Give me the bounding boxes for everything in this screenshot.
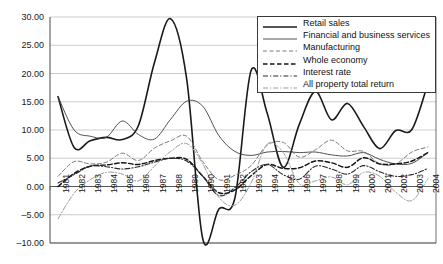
- y-axis-tick-label: –10.00: [0, 238, 44, 248]
- legend-item[interactable]: All property total return: [258, 78, 435, 90]
- x-axis-tick-label: 1985: [126, 174, 135, 193]
- legend-swatch-icon: [262, 30, 298, 40]
- x-axis-tick-label: 1986: [142, 174, 151, 193]
- legend-item[interactable]: Manufacturing: [258, 41, 435, 53]
- x-axis-tick-label: 1988: [175, 174, 184, 193]
- x-axis-tick-label: 1987: [159, 174, 168, 193]
- legend-item[interactable]: Financial and business services: [258, 29, 435, 41]
- legend: Retail salesFinancial and business servi…: [257, 16, 436, 93]
- legend-label: Financial and business services: [303, 30, 430, 40]
- y-axis-tick-label: 5.00: [0, 153, 44, 163]
- legend-swatch-icon: [262, 79, 298, 89]
- legend-item[interactable]: Retail sales: [258, 17, 435, 29]
- x-axis-tick-label: 2000: [368, 174, 377, 193]
- line-chart: 30.0025.0020.0015.0010.005.000.00–5.00–1…: [0, 0, 443, 264]
- y-axis-tick-label: 10.00: [0, 125, 44, 135]
- legend-swatch-icon: [262, 55, 298, 65]
- legend-label: Manufacturing: [303, 42, 360, 52]
- legend-swatch-icon: [262, 42, 298, 52]
- y-axis-tick-label: 30.00: [0, 12, 44, 22]
- x-axis-tick-label: 1990: [207, 174, 216, 193]
- legend-item[interactable]: Interest rate: [258, 66, 435, 78]
- y-axis-tick-label: –5.00: [0, 210, 44, 220]
- x-axis-tick-label: 1994: [271, 174, 280, 193]
- x-axis-tick-label: 1983: [94, 174, 103, 193]
- legend-label: All property total return: [303, 79, 394, 89]
- y-axis-tick-label: 25.00: [0, 40, 44, 50]
- x-axis-tick-label: 1989: [191, 174, 200, 193]
- x-axis-tick-label: 1998: [335, 174, 344, 193]
- x-axis-tick-label: 1996: [303, 174, 312, 193]
- x-axis-tick-label: 1991: [223, 174, 232, 193]
- y-axis-tick-label: 15.00: [0, 97, 44, 107]
- y-axis-tick-label: 20.00: [0, 69, 44, 79]
- legend-label: Interest rate: [303, 67, 351, 77]
- x-axis-tick-label: 2001: [384, 174, 393, 193]
- legend-label: Whole economy: [303, 55, 368, 65]
- x-axis-tick-label: 2002: [400, 174, 409, 193]
- y-axis-tick-label: 0.00: [0, 182, 44, 192]
- legend-swatch-icon: [262, 67, 298, 77]
- x-axis-tick-label: 2004: [432, 174, 441, 193]
- legend-swatch-icon: [262, 18, 298, 28]
- legend-item[interactable]: Whole economy: [258, 54, 435, 66]
- x-axis-tick-label: 2003: [416, 174, 425, 193]
- x-axis-tick-label: 1995: [287, 174, 296, 193]
- x-axis-tick-label: 1993: [255, 174, 264, 193]
- x-axis-tick-label: 1982: [78, 174, 87, 193]
- legend-label: Retail sales: [303, 18, 350, 28]
- x-axis-tick-label: 1992: [239, 174, 248, 193]
- x-axis-tick-label: 1999: [352, 174, 361, 193]
- x-axis-tick-label: 1997: [319, 174, 328, 193]
- x-axis-tick-label: 1981: [62, 174, 71, 193]
- x-axis-tick-label: 1984: [110, 174, 119, 193]
